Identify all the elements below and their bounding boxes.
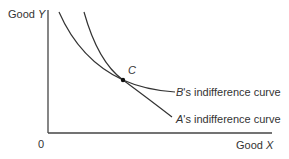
origin-label: 0	[38, 138, 44, 150]
curve-b	[84, 12, 175, 92]
curve-b-label: B's indifference curve	[176, 86, 281, 98]
curve-a	[59, 12, 172, 117]
curve-a-label: A's indifference curve	[176, 113, 281, 125]
diagram-lines	[0, 0, 289, 159]
point-c-label: C	[128, 64, 136, 76]
x-axis-label: Good X	[236, 139, 273, 151]
y-axis-label: Good Y	[8, 8, 45, 20]
point-c	[121, 78, 125, 82]
indifference-diagram: Good Y Good X 0 C B's indifference curve…	[0, 0, 289, 159]
